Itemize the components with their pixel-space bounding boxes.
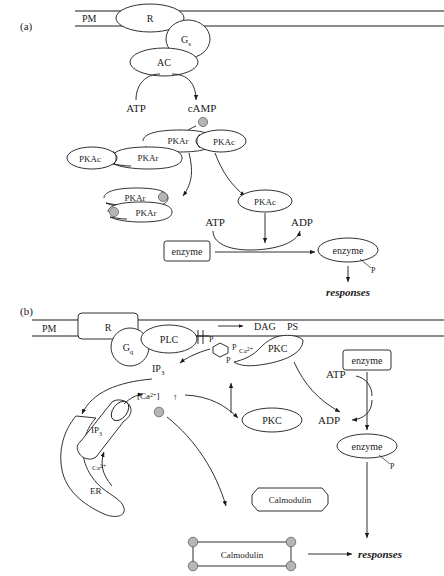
panel-a-inactive-enzyme-label: enzyme <box>171 246 203 257</box>
panel-b-calmodulin-calcium-dot-tr <box>286 537 296 547</box>
panel-b-calmodulin-calcium-dot-tl <box>188 537 198 547</box>
panel-b-ps-label: PS <box>287 321 298 332</box>
panel-a-phosphate-label: P <box>371 266 376 275</box>
panel-b-calmodulin-calcium-dot-bl <box>188 561 198 571</box>
panel-b-calcium-reuptake-arrow <box>102 452 112 486</box>
panel-a-kinase-atp-label: ATP <box>205 216 225 228</box>
panel-b-adp-produced-arc <box>352 400 372 420</box>
panel-b-label: (b) <box>20 305 33 318</box>
panel-a-pkar-lower-label: PKAr <box>137 153 158 163</box>
panel-a-atp-label: ATP <box>126 102 146 114</box>
panel-a-pkar-upper-label: PKAr <box>167 136 188 146</box>
panel-b-pkc-membrane-label: PKC <box>268 343 288 354</box>
panel-a-active-enzyme-label: enzyme <box>332 245 364 256</box>
panel-b-ip3-phosphate-2: P <box>232 343 237 352</box>
panel-b-pkc-cytosol-label: PKC <box>262 415 282 426</box>
panel-b-atp-consumed-arc <box>356 376 372 396</box>
pathway-diagram: (a) PM R Gs AC ATP cAMP PKAr PKAc PKAr P… <box>0 0 444 576</box>
panel-b-plc-label: PLC <box>160 334 179 345</box>
panel-b-bound-calmodulin-label: Calmodulin <box>221 550 264 560</box>
panel-b-active-enzyme-label: enzyme <box>351 441 383 452</box>
figure-canvas: (a) PM R Gs AC ATP cAMP PKAr PKAc PKAr P… <box>0 0 444 576</box>
panel-b-calcium-membrane-label: Ca2+ <box>239 346 254 356</box>
panel-b-calcium-increase-arrow-glyph: ↑ <box>173 392 178 402</box>
panel-a-camp-label: cAMP <box>188 102 217 114</box>
panel-a-pkar-release-arrow <box>183 153 191 196</box>
panel-a-membrane-label: PM <box>82 13 97 24</box>
panel-a-adp-produced-arc <box>250 231 300 250</box>
panel-b-dag-label: DAG <box>254 321 276 332</box>
panel-b-inactive-enzyme-label: enzyme <box>351 355 383 366</box>
panel-a-atp-inflow-arc <box>136 74 160 100</box>
panel-a-pkar-bound-camp-dot-left <box>109 207 118 216</box>
panel-a-free-pkac-label: PKAc <box>254 197 276 207</box>
panel-a-responses-label: responses <box>326 286 370 298</box>
panel-a-kinase-adp-label: ADP <box>291 216 313 228</box>
panel-b-calmodulin-calcium-dot-br <box>286 561 296 571</box>
panel-a-pkar-bound-lower-label: PKAr <box>135 208 156 218</box>
panel-b-receptor-label: R <box>105 322 112 333</box>
panel-b-responses-label-left: responses <box>358 548 402 560</box>
panel-a-pkar-bound-camp-dot-right <box>158 192 167 201</box>
panel-b-ip3-label: IP3 <box>152 363 165 377</box>
panel-a-atp-consumed-arc <box>213 231 250 250</box>
panel-a-pkac-release-arrow <box>215 153 245 196</box>
panel-a-adenylyl-cyclase-label: AC <box>157 57 171 68</box>
panel-b-phosphate-label: P <box>390 462 395 471</box>
panel-a-label: (a) <box>20 20 33 33</box>
panel-b-ip3-phosphate-1: P <box>209 335 214 344</box>
panel-b-kinase-adp-label: ADP <box>318 414 340 426</box>
panel-b-calcium-to-calmodulin-arrow <box>167 417 226 506</box>
panel-a-pkac-upper-label: PKAc <box>213 137 235 147</box>
panel-b-cytosolic-calcium-dot <box>154 407 164 417</box>
panel-b-free-calmodulin-label: Calmodulin <box>269 495 312 505</box>
panel-a-pkac-lower-label: PKAc <box>79 154 101 164</box>
panel-b-calcium-to-pkc-arrow <box>185 395 238 418</box>
panel-b-ip3-molecule-shape <box>213 343 228 357</box>
panel-b-er-label: ER <box>90 486 102 496</box>
panel-b-membrane-label: PM <box>42 323 57 334</box>
panel-a-phosphate-tether <box>360 259 371 268</box>
panel-a-camp-outflow-arc <box>172 74 196 100</box>
panel-b-kinase-atp-label: ATP <box>326 368 346 380</box>
panel-b-phosphate-tether <box>379 455 390 464</box>
panel-b-ip3-phosphate-3: P <box>226 356 231 365</box>
panel-a-receptor-label: R <box>147 13 154 24</box>
panel-b-er-calcium-label: Ca2+ <box>92 463 107 473</box>
panel-a-camp-molecule-dot <box>198 117 207 126</box>
panel-a-pkar-bound-upper-label: PKAr <box>124 193 145 203</box>
panel-b-calcium-concentration-label: [Ca2+] <box>137 391 159 401</box>
